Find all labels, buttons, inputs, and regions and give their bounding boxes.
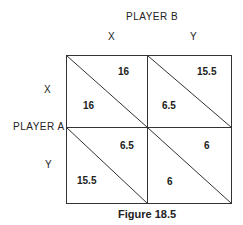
cell-yy-diagonal: [148, 128, 232, 204]
cell-yx-row-payoff: 15.5: [77, 175, 96, 186]
cell-xx-col-payoff: 16: [118, 66, 129, 77]
cell-yx-col-payoff: 6.5: [120, 140, 134, 151]
figure-caption: Figure 18.5: [118, 208, 176, 220]
cell-xx-row-payoff: 16: [83, 100, 94, 111]
cell-xy-col-payoff: 15.5: [197, 66, 216, 77]
cell-yy-row-payoff: 6: [167, 176, 173, 187]
cell-xx-diagonal: [67, 56, 148, 128]
cell-xy-row-payoff: 6.5: [162, 100, 176, 111]
payoff-matrix-grid: [0, 0, 243, 225]
cell-xy-diagonal: [148, 56, 232, 128]
cell-yx-diagonal: [67, 128, 148, 204]
cell-yy-col-payoff: 6: [204, 140, 210, 151]
